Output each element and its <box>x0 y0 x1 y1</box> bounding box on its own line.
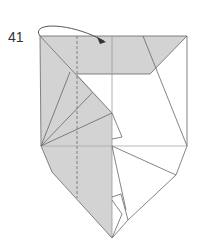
colored-paper-regions <box>40 36 187 238</box>
fold-diagram-svg <box>0 0 201 240</box>
origami-diagram: 41 <box>0 0 201 240</box>
